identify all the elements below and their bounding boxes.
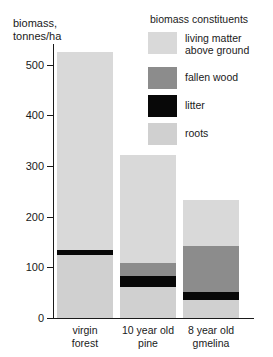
x-label-10-year-old-pine: 10 year old pine xyxy=(112,324,184,349)
y-tick-200 xyxy=(47,217,53,218)
bar-8-year-old-gmelina xyxy=(183,200,239,318)
bar-10-year-old-pine xyxy=(120,155,176,318)
y-axis-line xyxy=(53,44,54,319)
x-axis-line xyxy=(53,318,254,319)
segment-fallen-wood xyxy=(120,263,176,276)
y-tick-label-200: 200 xyxy=(26,211,44,223)
bar-virgin-forest xyxy=(57,52,113,318)
y-tick-300 xyxy=(47,166,53,167)
segment-litter xyxy=(183,292,239,300)
segment-litter xyxy=(120,276,176,287)
segment-roots xyxy=(120,287,176,318)
y-tick-label-100: 100 xyxy=(26,261,44,273)
y-tick-500 xyxy=(47,65,53,66)
x-label-virgin-forest: virgin forest xyxy=(49,324,121,349)
segment-living-matter xyxy=(120,155,176,263)
segment-living-matter xyxy=(57,52,113,250)
y-tick-label-300: 300 xyxy=(26,160,44,172)
y-tick-label-400: 400 xyxy=(26,109,44,121)
segment-living-matter xyxy=(183,200,239,246)
segment-roots xyxy=(57,255,113,319)
x-label-8-year-old-gmelina: 8 year old gmelina xyxy=(175,324,247,349)
biomass-stacked-bar-chart: biomass,tonnes/ha biomass constituents l… xyxy=(0,0,273,357)
y-tick-0 xyxy=(47,318,53,319)
y-tick-100 xyxy=(47,267,53,268)
plot-area: 500 400 300 200 100 0 xyxy=(0,0,273,357)
y-tick-label-0: 0 xyxy=(38,312,44,324)
y-tick-400 xyxy=(47,115,53,116)
segment-fallen-wood xyxy=(183,246,239,292)
segment-roots xyxy=(183,300,239,318)
y-tick-label-500: 500 xyxy=(26,59,44,71)
